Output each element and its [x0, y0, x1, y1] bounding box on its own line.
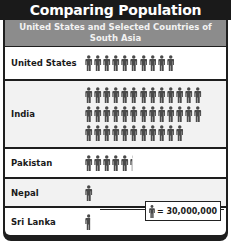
person-icon [121, 106, 129, 122]
person-icon [167, 55, 175, 71]
person-icon [112, 55, 120, 71]
person-icon [85, 214, 93, 230]
person-icon [94, 55, 102, 71]
person-icon [194, 87, 202, 103]
person-icon [112, 155, 120, 171]
person-icon [85, 55, 93, 71]
person-icon [130, 106, 138, 122]
person-icon [158, 55, 166, 71]
person-icon [149, 106, 157, 122]
chart-title: Comparing Population [0, 0, 231, 20]
row-label: Pakistan [5, 158, 85, 168]
person-icon [167, 106, 175, 122]
row-india: India [5, 81, 226, 147]
person-icon [185, 106, 193, 122]
icon-line [85, 125, 202, 141]
chart-subtitle: United States and Selected Countries of … [5, 20, 226, 46]
row-label: Sri Lanka [5, 217, 85, 227]
person-icon [158, 125, 166, 141]
person-icon [103, 106, 111, 122]
person-icon [140, 106, 148, 122]
icon-group [85, 87, 202, 141]
icon-line [85, 55, 174, 71]
person-icon [158, 106, 166, 122]
person-icon [176, 125, 184, 141]
row-label: United States [5, 58, 85, 68]
person-icon [130, 55, 138, 71]
person-icon [94, 87, 102, 103]
person-icon [94, 125, 102, 141]
person-icon [149, 205, 155, 218]
person-icon [112, 125, 120, 141]
icon-line [85, 185, 93, 201]
person-icon [103, 155, 111, 171]
person-icon [194, 106, 202, 122]
person-icon [94, 155, 102, 171]
icon-line [85, 106, 202, 122]
row-pakistan: Pakistan [5, 149, 226, 177]
person-icon [149, 205, 155, 218]
row-united-states: United States [5, 47, 226, 79]
person-icon [140, 87, 148, 103]
icon-group [85, 155, 138, 171]
person-icon [85, 106, 93, 122]
person-icon [121, 125, 129, 141]
person-icon [130, 87, 138, 103]
icon-line [85, 155, 138, 171]
person-icon [167, 125, 175, 141]
person-icon [167, 87, 175, 103]
person-icon [130, 125, 138, 141]
person-icon [149, 125, 157, 141]
person-icon [130, 155, 138, 171]
person-icon [103, 87, 111, 103]
person-icon [85, 185, 93, 201]
person-icon [85, 125, 93, 141]
icon-line [85, 87, 202, 103]
person-icon [94, 106, 102, 122]
person-icon [85, 155, 93, 171]
person-icon [149, 55, 157, 71]
person-icon [112, 87, 120, 103]
person-icon [185, 87, 193, 103]
person-icon [112, 106, 120, 122]
person-icon [121, 155, 129, 171]
person-icon [85, 87, 93, 103]
icon-group [85, 214, 93, 230]
person-icon [158, 87, 166, 103]
person-icon [149, 87, 157, 103]
person-icon [103, 55, 111, 71]
legend-text: = 30,000,000 [157, 207, 217, 216]
person-icon [176, 106, 184, 122]
person-icon [103, 125, 111, 141]
row-label: India [5, 109, 85, 119]
icon-group [85, 185, 93, 201]
person-icon [121, 87, 129, 103]
icon-line [85, 214, 93, 230]
person-icon [140, 55, 148, 71]
person-icon [140, 125, 148, 141]
icon-group [85, 55, 174, 71]
person-icon [121, 55, 129, 71]
row-label: Nepal [5, 188, 85, 198]
legend-key: = 30,000,000 [145, 201, 221, 221]
person-icon [176, 87, 184, 103]
